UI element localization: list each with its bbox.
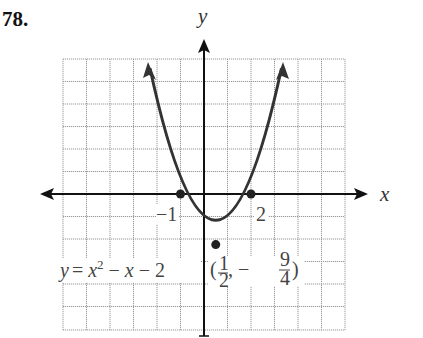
- svg-text:y= x2 − x − 2: y= x2 − x − 2: [58, 257, 165, 282]
- curve-right-arrow-icon: [276, 62, 289, 80]
- vertex-label: ( 1 2 , − 9 4 ): [208, 248, 304, 291]
- svg-text:, −: , −: [228, 258, 249, 280]
- parabola-curve: [150, 68, 282, 220]
- x-intercept-left-point: [176, 190, 185, 199]
- equation-label: y= x2 − x − 2: [58, 257, 200, 282]
- y-axis: [198, 39, 210, 336]
- svg-text:): ): [292, 258, 299, 281]
- problem-number: 78.: [2, 7, 28, 31]
- vertex-point: [211, 240, 220, 249]
- y-axis-label: y: [196, 4, 208, 28]
- svg-text:4: 4: [280, 267, 290, 289]
- x-intercept-right-label: 2: [256, 203, 266, 225]
- x-intercept-right-point: [247, 190, 256, 199]
- graph: 78. x y: [0, 0, 423, 338]
- x-intercept-left-label: −1: [156, 203, 177, 225]
- x-axis-label: x: [379, 182, 390, 206]
- curve-left-arrow-icon: [143, 62, 156, 80]
- svg-text:(: (: [210, 258, 217, 281]
